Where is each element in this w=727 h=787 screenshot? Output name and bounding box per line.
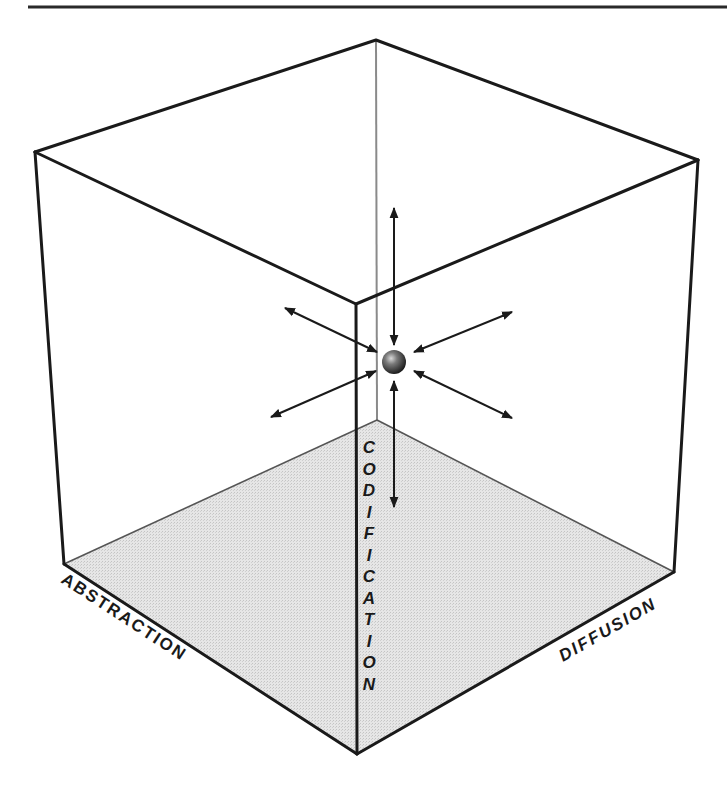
codification-letter: C bbox=[363, 567, 376, 586]
codification-letter: D bbox=[363, 481, 375, 500]
arrow-lower-left bbox=[271, 371, 376, 417]
codification-letter: T bbox=[364, 610, 376, 629]
cube-diagram: ABSTRACTION DIFFUSION CODIFICATION bbox=[0, 0, 727, 787]
sphere-icon bbox=[382, 350, 406, 374]
arrow-upper-right bbox=[414, 312, 512, 352]
cube-top-front bbox=[35, 152, 698, 304]
codification-letter: O bbox=[362, 653, 375, 672]
cube-left-vertical bbox=[35, 152, 64, 564]
back-vertical-edge bbox=[376, 40, 377, 420]
cube-top-outline bbox=[35, 40, 698, 160]
codification-letter: A bbox=[362, 589, 375, 608]
codification-letter: O bbox=[362, 460, 375, 479]
arrow-lower-right bbox=[414, 371, 512, 418]
arrow-upper-left bbox=[285, 308, 377, 352]
cube-right-vertical bbox=[674, 160, 698, 572]
codification-letter: N bbox=[363, 675, 376, 694]
cube-front-vertical bbox=[356, 304, 357, 754]
codification-letter: C bbox=[363, 438, 376, 457]
codification-letter: F bbox=[364, 524, 375, 543]
